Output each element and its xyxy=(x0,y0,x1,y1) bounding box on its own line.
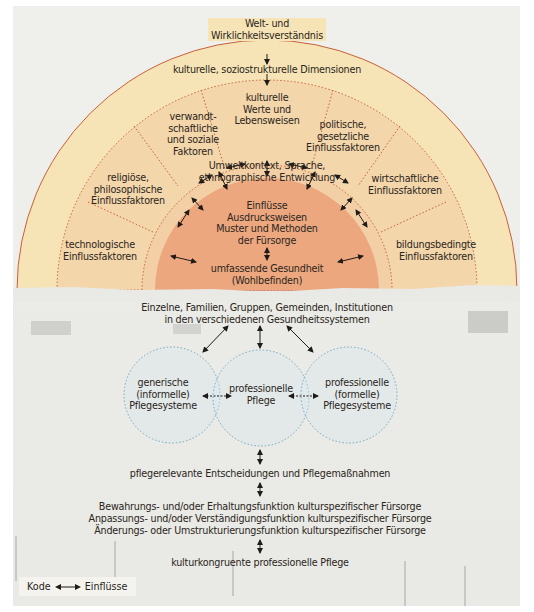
legend-code: Kode xyxy=(27,581,51,592)
sector-religious-philosophical: religiöse, philosophische Einflussfaktor… xyxy=(91,172,165,207)
core-health-label: umfassende Gesundheit (Wohlbefinden) xyxy=(211,263,324,286)
sector-kinship-social: verwandt- schaftliche und soziale Faktor… xyxy=(167,111,219,157)
decisions-label: pflegerelevante Entscheidungen und Pfleg… xyxy=(130,468,390,480)
dimensions-label: kulturelle, soziostrukturelle Dimensione… xyxy=(173,64,361,76)
function-preservation: Bewahrungs- und/oder Erhaltungsfunktion … xyxy=(99,501,421,513)
function-accommodation: Anpassungs- und/oder Verständigungsfunkt… xyxy=(89,513,432,525)
diagram-panel: Welt- und Wirklichkeitsverständnis kultu… xyxy=(13,6,520,606)
legend: Kode Einflüsse xyxy=(19,577,136,596)
sector-political-legal: politische, gesetzliche Einflussfaktoren xyxy=(306,119,380,154)
sector-economic: wirtschaftliche Einflussfaktoren xyxy=(368,173,442,196)
population-label: Einzelne, Familien, Gruppen, Gemeinden, … xyxy=(141,302,393,325)
legend-influences: Einflüsse xyxy=(85,581,128,592)
world-view-label: Welt- und Wirklichkeitsverständnis xyxy=(208,18,326,41)
function-restructuring: Änderungs- oder Umstrukturierungsfunktio… xyxy=(94,525,426,537)
sector-educational: bildungsbedingte Einflussfaktoren xyxy=(396,239,476,262)
circle-professional-care: professionelle Pflege xyxy=(229,383,293,406)
double-arrow-icon xyxy=(55,583,81,591)
sector-technological: technologische Einflussfaktoren xyxy=(63,239,137,262)
sector-cultural-values: kulturelle Werte und Lebensweisen xyxy=(234,92,299,127)
circle-formal-care: professionelle (formelle) Pflegesysteme xyxy=(323,377,391,412)
outcome-label: kulturkongruente professionelle Pflege xyxy=(171,557,349,569)
core-care-label: Einflüsse Ausdrucksweisen Muster und Met… xyxy=(216,200,317,246)
environment-label: Umweltkontext, Sprache, ethnographische … xyxy=(199,160,336,183)
circle-generic-care: generische (informelle) Pflegesysteme xyxy=(129,377,197,412)
